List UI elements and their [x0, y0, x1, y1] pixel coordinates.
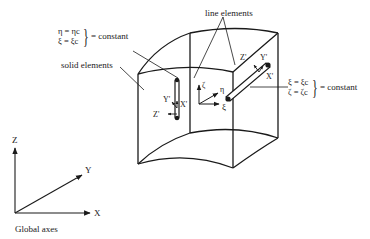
eq-right-constant: = constant: [320, 82, 357, 92]
diag-element-z-label: Z': [240, 53, 246, 63]
global-y-label: Y: [85, 165, 92, 175]
global-z-label: Z: [12, 135, 18, 145]
diagram-canvas: [0, 0, 370, 239]
diag-element-y-label: Y': [260, 53, 267, 63]
eq-left-constant: = constant: [91, 31, 128, 41]
diag-element-x-label: X': [266, 72, 273, 82]
bottom-right-edge: [233, 138, 278, 168]
label-global-axes: Global axes: [15, 224, 58, 234]
vert-element-x-label: X': [180, 100, 187, 110]
global-x-label: X: [94, 208, 101, 218]
front-top-edge: [138, 67, 233, 74]
vert-element-y-label: Y': [163, 95, 170, 105]
label-line-elements: line elements: [205, 8, 253, 18]
eq-left-line2: ξ = ξc: [58, 37, 78, 47]
leader-line-elements-2: [223, 17, 235, 65]
front-bottom-edge: [138, 158, 233, 168]
local-eta-label: η: [220, 85, 224, 95]
vert-element-z-label: Z': [153, 110, 159, 120]
local-eta-axis: [199, 93, 218, 104]
back-top-edge: [190, 29, 278, 34]
back-bottom-edge: [190, 129, 278, 138]
local-zeta-label: ζ: [202, 81, 205, 91]
label-solid-elements: solid elements: [61, 60, 113, 70]
global-y-axis: [15, 175, 82, 213]
brace-right-icon: }: [312, 77, 318, 97]
local-xi-label: ξ: [222, 102, 226, 112]
diagonal-line-element: [225, 62, 270, 101]
brace-left-icon: }: [83, 26, 89, 46]
eq-right-line2: ζ = ζc: [288, 88, 308, 98]
global-axes: [15, 148, 90, 213]
